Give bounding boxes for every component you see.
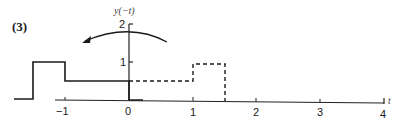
x-tick-label-1: 1 bbox=[190, 106, 196, 118]
part-label: (3) bbox=[12, 19, 27, 34]
original-signal-dashed bbox=[129, 64, 225, 101]
signal-diagram: (3) y(−t) t 2 1 −1 0 1 2 3 4 bbox=[0, 0, 409, 124]
y-tick-label-2: 2 bbox=[119, 18, 125, 30]
x-tick-label-0: 0 bbox=[125, 105, 131, 117]
x-tick-label-3: 3 bbox=[317, 106, 323, 118]
y-axis-label: y(−t) bbox=[113, 5, 135, 17]
x-tick-label-4: 4 bbox=[380, 108, 386, 120]
t-axis bbox=[55, 100, 384, 103]
x-axis-label: t bbox=[388, 95, 391, 106]
x-tick-label-2: 2 bbox=[253, 106, 259, 118]
arrowhead-icon bbox=[82, 36, 91, 43]
reflection-arrow bbox=[85, 32, 167, 42]
y-tick-label-1: 1 bbox=[120, 56, 126, 68]
x-tick-label-minus1: −1 bbox=[56, 105, 69, 117]
